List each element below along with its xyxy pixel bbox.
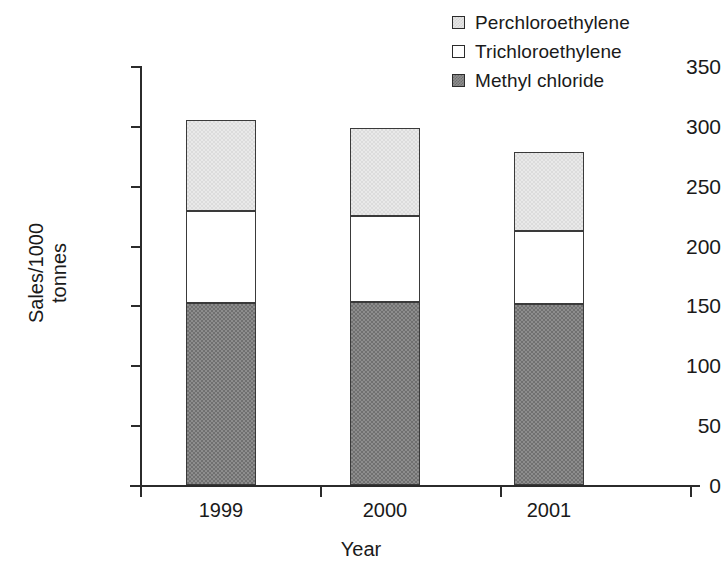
legend-swatch-perchloroethylene xyxy=(452,16,465,29)
x-tick-2 xyxy=(500,486,502,497)
x-tick-label-2001: 2001 xyxy=(489,500,609,520)
y-axis-title-line2: tonnes xyxy=(48,188,71,358)
legend-item-trichloroethylene[interactable]: Trichloroethylene xyxy=(452,37,630,66)
y-tick-label-150: 150 xyxy=(609,295,721,316)
legend-label-perchloroethylene: Perchloroethylene xyxy=(475,12,630,34)
y-axis-title-line1: Sales/1000 xyxy=(25,188,48,358)
x-axis-title: Year xyxy=(301,538,421,561)
x-tick-label-1999: 1999 xyxy=(161,500,281,520)
x-tick-start xyxy=(140,486,142,497)
y-tick-350 xyxy=(131,66,140,68)
y-tick-label-50: 50 xyxy=(609,415,721,436)
y-axis-title: Sales/1000 tonnes xyxy=(25,188,71,358)
x-tick-end xyxy=(690,486,692,497)
y-tick-label-250: 250 xyxy=(609,176,721,197)
bar-segment-methyl-chloride-2000[interactable] xyxy=(350,302,420,485)
y-tick-label-100: 100 xyxy=(609,355,721,376)
bar-segment-methyl-chloride-2001[interactable] xyxy=(514,304,584,485)
x-tick-label-2000: 2000 xyxy=(325,500,445,520)
legend-swatch-trichloroethylene xyxy=(452,45,465,58)
legend-item-methyl-chloride[interactable]: Methyl chloride xyxy=(452,66,630,95)
y-tick-label-300: 300 xyxy=(609,116,721,137)
y-tick-100 xyxy=(131,365,140,367)
bar-segment-perchloroethylene-2001[interactable] xyxy=(514,152,584,231)
y-tick-label-0: 0 xyxy=(609,475,721,496)
bar-segment-trichloroethylene-2000[interactable] xyxy=(350,216,420,302)
legend-label-methyl-chloride: Methyl chloride xyxy=(475,70,604,92)
y-tick-150 xyxy=(131,305,140,307)
bar-segment-trichloroethylene-2001[interactable] xyxy=(514,231,584,304)
bar-segment-methyl-chloride-1999[interactable] xyxy=(186,303,256,485)
chart-figure: Perchloroethylene Trichloroethylene Meth… xyxy=(0,0,721,586)
y-tick-label-350: 350 xyxy=(609,56,721,77)
chart-legend: Perchloroethylene Trichloroethylene Meth… xyxy=(452,8,630,95)
y-axis-line xyxy=(140,66,142,487)
bar-segment-trichloroethylene-1999[interactable] xyxy=(186,211,256,303)
legend-item-perchloroethylene[interactable]: Perchloroethylene xyxy=(452,8,630,37)
legend-swatch-methyl-chloride xyxy=(452,74,465,87)
y-tick-0 xyxy=(131,485,140,487)
x-tick-1 xyxy=(320,486,322,497)
bar-segment-perchloroethylene-2000[interactable] xyxy=(350,128,420,215)
y-tick-250 xyxy=(131,186,140,188)
y-tick-200 xyxy=(131,246,140,248)
y-tick-label-200: 200 xyxy=(609,236,721,257)
legend-label-trichloroethylene: Trichloroethylene xyxy=(475,41,622,63)
bar-segment-perchloroethylene-1999[interactable] xyxy=(186,120,256,211)
y-tick-300 xyxy=(131,126,140,128)
y-tick-50 xyxy=(131,425,140,427)
